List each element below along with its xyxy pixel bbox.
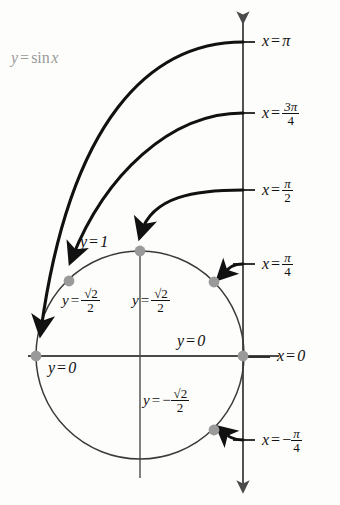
point-neg-pi-over-4 — [209, 425, 220, 436]
y-equals-0-right-label: y=0 — [177, 333, 205, 349]
point-3pi-over-4 — [64, 276, 75, 287]
point-0 — [238, 351, 249, 362]
y-equals-neg-sqrt2-over-2-label: y=−√22 — [143, 388, 189, 416]
point-pi — [31, 351, 42, 362]
y-equals-1-label: y=1 — [80, 234, 108, 250]
point-pi-over-4 — [209, 277, 220, 288]
y-equals-0-left-label: y=0 — [48, 360, 76, 376]
point-pi-over-2 — [135, 246, 146, 257]
sine-function-label: y=sin x — [11, 50, 58, 66]
mapping-arrow-pi-over-4 — [221, 264, 243, 276]
y-equals-sqrt2-over-2-right-label: y=√22 — [132, 288, 170, 316]
unit-circle-sine-figure: y=sin x x=π x=3π4 x=π2 x=π4 x=0 x=−π4 y=… — [0, 0, 340, 505]
x-equals-0-label: x=0 — [277, 348, 305, 364]
x-equals-3pi-over-4-label: x=3π4 — [262, 101, 299, 129]
y-equals-sqrt2-over-2-left-label: y=√22 — [62, 288, 100, 316]
mapping-arrow-pi-over-2 — [141, 190, 243, 233]
x-equals-pi-over-4-label: x=π4 — [262, 252, 293, 280]
x-equals-neg-pi-over-4-label: x=−π4 — [262, 428, 302, 456]
mapping-arrow-neg-pi-over-4 — [221, 430, 243, 440]
x-equals-pi-label: x=π — [262, 33, 290, 49]
x-equals-pi-over-2-label: x=π2 — [262, 178, 293, 206]
